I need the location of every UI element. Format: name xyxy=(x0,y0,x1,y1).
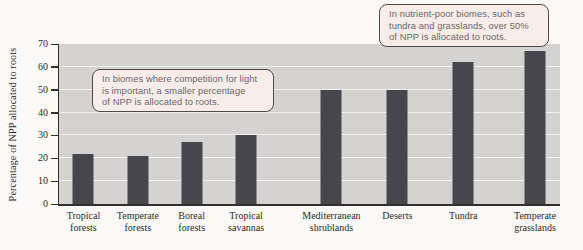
annotation-text-line: In nutrient-poor biomes, such as xyxy=(389,9,540,21)
x-category-label: Deserts xyxy=(382,210,412,222)
bar xyxy=(181,142,202,204)
bar xyxy=(236,135,257,204)
gridline xyxy=(59,134,560,135)
y-axis-tick-label: 20 xyxy=(22,152,48,164)
x-category-label-line: grasslands xyxy=(514,222,556,234)
x-category-label-line: Tropical xyxy=(228,210,264,222)
y-axis-tick-label: 70 xyxy=(22,38,48,50)
bar xyxy=(321,90,342,204)
y-axis-title: Percentage of NPP allocated to roots xyxy=(7,35,22,215)
x-category-label-line: forests xyxy=(67,222,101,234)
annotation-text-line: is important, a smaller percentage xyxy=(102,86,265,98)
x-category-label-line: Temperate xyxy=(514,210,556,222)
y-axis-tick-mark xyxy=(51,158,58,160)
y-axis-tick-label: 30 xyxy=(22,129,48,141)
x-category-label-line: Boreal xyxy=(178,210,205,222)
annotation-text-line: tundra and grasslands, over 50% xyxy=(389,21,540,33)
x-category-label: Tropicalsavannas xyxy=(228,210,264,233)
x-category-label: Mediterraneanshrublands xyxy=(302,210,360,233)
x-category-label-line: Temperate xyxy=(117,210,159,222)
x-category-label-line: Deserts xyxy=(382,210,412,222)
x-category-label: Tundra xyxy=(449,210,478,222)
gridline xyxy=(59,66,560,67)
y-axis-tick-mark xyxy=(51,112,58,114)
x-category-label: Temperategrasslands xyxy=(514,210,556,233)
x-category-label-line: savannas xyxy=(228,222,264,234)
annotation-competition-for-light: In biomes where competition for light is… xyxy=(92,69,274,112)
x-category-label-line: forests xyxy=(178,222,205,234)
annotation-text-line: of NPP is allocated to roots. xyxy=(102,97,265,109)
x-category-label-line: Tropical xyxy=(67,210,101,222)
y-axis-tick-label: 10 xyxy=(22,175,48,187)
x-category-label: Temperateforests xyxy=(117,210,159,233)
x-category-label-line: forests xyxy=(117,222,159,234)
x-category-label-line: shrublands xyxy=(302,222,360,234)
y-axis-tick-label: 0 xyxy=(22,198,48,210)
y-axis-tick-mark xyxy=(51,181,58,183)
y-axis-tick-mark xyxy=(51,204,58,206)
x-category-label-line: Tundra xyxy=(449,210,478,222)
y-axis-tick-mark xyxy=(51,44,58,46)
y-axis-tick-label: 60 xyxy=(22,61,48,73)
bar xyxy=(127,156,148,204)
y-axis-tick-label: 50 xyxy=(22,84,48,96)
x-category-label-line: Mediterranean xyxy=(302,210,360,222)
annotation-text-line: In biomes where competition for light xyxy=(102,74,265,86)
npp-allocation-bar-chart-figure: Percentage of NPP allocated to roots 010… xyxy=(0,0,583,250)
x-category-label: Borealforests xyxy=(178,210,205,233)
annotation-nutrient-poor-biomes: In nutrient-poor biomes, such as tundra … xyxy=(379,4,549,47)
annotation-text-line: of NPP is allocated to roots. xyxy=(389,32,540,44)
y-axis-tick-label: 40 xyxy=(22,107,48,119)
bar xyxy=(525,51,546,204)
bar xyxy=(387,90,408,204)
bar xyxy=(453,62,474,204)
y-axis-tick-mark xyxy=(51,66,58,68)
x-category-label: Tropicalforests xyxy=(67,210,101,233)
y-axis-tick-mark xyxy=(51,135,58,137)
bar xyxy=(73,154,94,204)
y-axis-tick-mark xyxy=(51,89,58,91)
